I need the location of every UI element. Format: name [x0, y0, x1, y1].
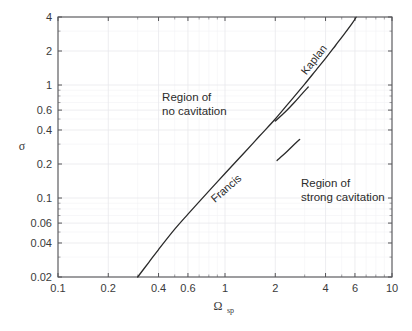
y-axis-tick-label: 0.6: [37, 104, 52, 116]
y-axis-tick-label: 0.4: [37, 124, 52, 136]
axis-tick-labels-layer: 0.10.20.40.61246104210.60.40.20.10.060.0…: [31, 11, 399, 294]
x-axis-tick-label: 0.1: [50, 282, 65, 294]
x-axis-tick-label: 0.4: [151, 282, 166, 294]
x-axis-title: Ω sp: [214, 299, 235, 315]
y-axis-tick-label: 1: [46, 79, 52, 91]
data-curve-francis-branch: [275, 87, 308, 121]
region-strong-cavitation-annotation-line2: strong cavitation: [301, 191, 385, 203]
y-axis-tick-label: 4: [46, 11, 52, 23]
y-axis-tick-label: 0.02: [31, 271, 52, 283]
region-strong-cavitation-annotation-line1: Region of: [301, 177, 351, 189]
curve-label-francis: Francis: [208, 171, 243, 204]
y-axis-tick-label: 0.1: [37, 192, 52, 204]
y-axis-title: σ: [19, 139, 26, 153]
region-no-cavitation-annotation-line2: no cavitation: [162, 105, 227, 117]
y-axis-tick-label: 0.04: [31, 237, 52, 249]
data-curve-kaplan-branch: [277, 139, 300, 160]
x-axis-tick-label: 2: [272, 282, 278, 294]
x-axis-tick-label: 1: [222, 282, 228, 294]
x-axis-title-sub: sp: [227, 306, 234, 315]
y-axis-tick-label: 0.06: [31, 217, 52, 229]
x-axis-tick-label: 0.2: [101, 282, 116, 294]
cavitation-sigma-vs-specific-speed-chart: 0.10.20.40.61246104210.60.40.20.10.060.0…: [0, 0, 412, 331]
x-axis-tick-label: 0.6: [180, 282, 195, 294]
y-axis-tick-label: 2: [46, 45, 52, 57]
x-axis-tick-label: 4: [322, 282, 328, 294]
y-axis-tick-label: 0.2: [37, 158, 52, 170]
x-axis-tick-label: 6: [352, 282, 358, 294]
region-annotations-layer: Region ofno cavitationRegion ofstrong ca…: [162, 91, 385, 203]
x-axis-tick-label: 10: [386, 282, 398, 294]
x-axis-title-main: Ω: [214, 299, 223, 313]
region-no-cavitation-annotation-line1: Region of: [162, 91, 212, 103]
cavitation-chart-figure: 0.10.20.40.61246104210.60.40.20.10.060.0…: [0, 0, 412, 331]
